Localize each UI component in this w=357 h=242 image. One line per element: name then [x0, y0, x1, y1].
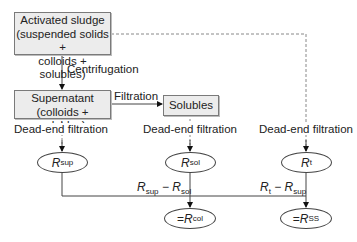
filtration-label: Filtration — [114, 90, 158, 102]
activated-sludge-box: Activated sludge (suspended solids + col… — [14, 12, 111, 55]
dead-end-filtration-label-2: Dead-end filtration — [143, 123, 237, 135]
r-col-expression: Rsup − Rsol — [137, 180, 191, 196]
activated-sludge-detail-1: (suspended solids + — [15, 28, 110, 55]
supernatant-title: Supernatant — [15, 92, 110, 106]
r-ss-node: = RSS — [280, 208, 332, 229]
solubles-box: Solubles — [163, 95, 219, 116]
supernatant-box: Supernatant (colloids + solubles) — [14, 90, 111, 119]
activated-sludge-title: Activated sludge — [15, 14, 110, 28]
r-t-node: Rt — [281, 152, 332, 173]
solubles-title: Solubles — [164, 99, 218, 113]
r-ss-expression: Rt − Rsup — [260, 180, 306, 196]
dead-end-filtration-label-3: Dead-end filtration — [259, 123, 353, 135]
dead-end-filtration-label-1: Dead-end filtration — [14, 123, 108, 135]
centrifugation-label: Centrifugation — [67, 63, 139, 75]
r-col-node: = Rcol — [164, 208, 216, 229]
r-sup-node: Rsup — [37, 152, 88, 173]
r-sol-node: Rsol — [165, 152, 216, 173]
